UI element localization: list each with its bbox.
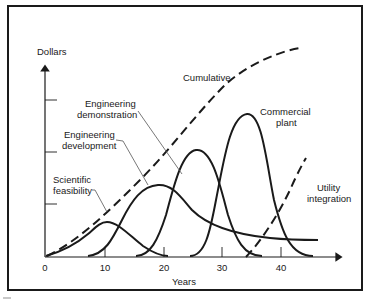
x-tick-label: 0	[42, 262, 47, 273]
y-axis-title: Dollars	[37, 46, 67, 57]
label-commercial-plant-2: plant	[276, 117, 297, 128]
x-tick-label: 30	[217, 262, 228, 273]
label-utility-1: Utility	[317, 182, 340, 193]
label-utility-2: integration	[307, 193, 351, 204]
series-cumulative	[47, 48, 300, 256]
x-tick-label: 40	[276, 262, 287, 273]
leader-line-sci	[92, 190, 107, 212]
chart-canvas: 0 10 20 30 40 Dollars Years Cumulative C…	[0, 0, 371, 304]
leader-line-eng-demo	[138, 111, 182, 174]
label-eng-demo-2: demonstration	[77, 109, 137, 120]
leader-line-eng-dev	[116, 140, 148, 185]
label-commercial-plant-1: Commercial	[260, 106, 311, 117]
label-cumulative: Cumulative	[183, 72, 231, 83]
label-scientific-1: Scientific	[53, 174, 91, 185]
label-eng-demo-1: Engineering	[85, 98, 136, 109]
footnote-mark	[3, 297, 11, 299]
series-engineering-demonstration	[136, 150, 262, 256]
x-tick-label: 10	[100, 262, 111, 273]
series-scientific-feasibility	[46, 222, 168, 256]
label-eng-dev-1: Engineering	[64, 129, 115, 140]
x-axis-title: Years	[172, 276, 196, 287]
label-scientific-2: feasibility	[53, 185, 92, 196]
label-eng-dev-2: development	[62, 140, 117, 151]
x-tick-label: 20	[159, 262, 170, 273]
